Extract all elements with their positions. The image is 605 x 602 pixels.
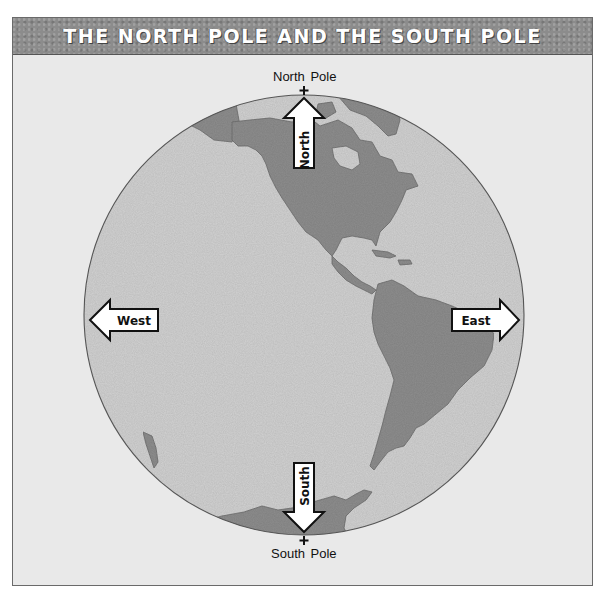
globe-map: North South West East bbox=[0, 0, 605, 602]
south-label: South bbox=[298, 466, 312, 506]
north-pole-label: North Pole bbox=[273, 69, 336, 84]
north-label: North bbox=[298, 131, 312, 169]
landmass-caribbean-2 bbox=[398, 260, 412, 265]
north-pole-marker bbox=[300, 86, 309, 95]
south-pole-marker bbox=[300, 536, 309, 545]
south-pole-label: South Pole bbox=[271, 546, 337, 561]
west-label: West bbox=[117, 314, 151, 328]
east-label: East bbox=[461, 314, 490, 328]
